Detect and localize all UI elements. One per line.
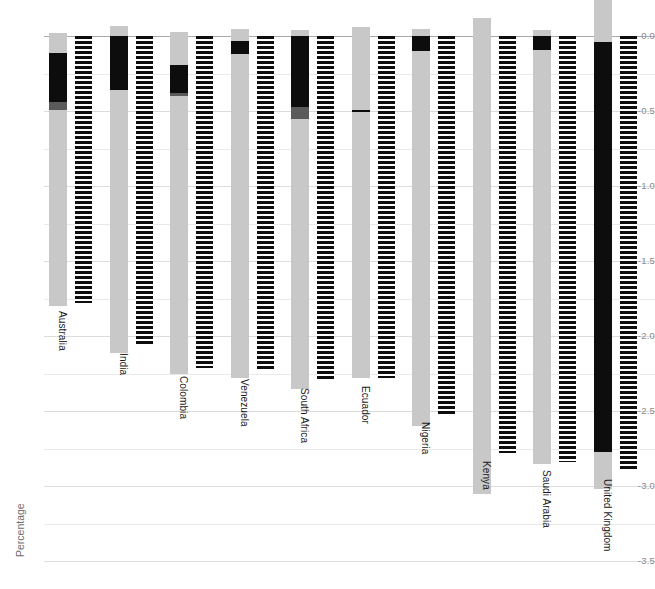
bar-group (291, 0, 334, 570)
category-label: Australia (57, 311, 68, 351)
bar-hatched[interactable] (257, 36, 274, 371)
bar-overlay-dark (49, 102, 67, 110)
bar-overlay-black (110, 36, 128, 90)
category-label: Nigeria (420, 422, 431, 454)
bar-solid[interactable] (594, 0, 612, 489)
bar-group (473, 0, 516, 570)
bar-overlay-black (231, 41, 249, 55)
category-label: United Kingdom (602, 479, 613, 552)
bar-group (110, 0, 153, 570)
bar-hatched[interactable] (499, 36, 516, 453)
bar-hatched[interactable] (196, 36, 213, 368)
bar-group (49, 0, 92, 570)
y-tick-label: -0.5 (615, 105, 655, 116)
y-tick-label: -3.0 (615, 480, 655, 491)
bar-solid[interactable] (110, 26, 128, 353)
bar-hatched[interactable] (75, 36, 92, 303)
chart-container: 0.0-0.5-1.0-1.5-2.0-2.5-3.0-3.5 Percenta… (0, 0, 655, 589)
bar-solid[interactable] (473, 18, 491, 494)
bar-overlay-dark (291, 107, 309, 119)
bar-solid[interactable] (291, 30, 309, 389)
category-label: Saudi Arabia (541, 470, 552, 528)
category-label: Venezuela (239, 379, 250, 427)
category-label: South Africa (299, 388, 310, 443)
bar-hatched[interactable] (136, 36, 153, 345)
y-axis-title: Percentage (14, 503, 26, 557)
y-tick-label: 0.0 (615, 30, 655, 41)
y-tick-label: -2.0 (615, 330, 655, 341)
bar-overlay-black (412, 36, 430, 51)
category-label: Colombia (178, 376, 189, 419)
bar-solid[interactable] (533, 30, 551, 464)
category-label: Ecuador (360, 386, 371, 424)
category-label: India (118, 353, 129, 375)
bar-solid[interactable] (49, 33, 67, 306)
bar-overlay-black (533, 36, 551, 50)
bar-hatched[interactable] (317, 36, 334, 380)
bar-group (533, 0, 576, 570)
plot-area (44, 0, 655, 570)
bar-group (412, 0, 455, 570)
bar-hatched[interactable] (559, 36, 576, 462)
bar-overlay-black (49, 53, 67, 103)
y-tick-label: -3.5 (615, 555, 655, 566)
bar-group (231, 0, 274, 570)
category-label: Kenya (481, 461, 492, 490)
bar-solid[interactable] (352, 27, 370, 378)
bar-overlay-black (594, 42, 612, 452)
bar-solid[interactable] (412, 29, 430, 427)
bar-group (352, 0, 395, 570)
bar-overlay-black (170, 65, 188, 94)
bar-solid[interactable] (170, 32, 188, 374)
bar-hatched[interactable] (378, 36, 395, 378)
bar-hatched[interactable] (438, 36, 455, 414)
bar-group (170, 0, 213, 570)
bar-overlay-black (352, 110, 370, 112)
figure-caption (44, 572, 604, 588)
bar-overlay-dark (170, 93, 188, 96)
y-tick-label: -2.5 (615, 405, 655, 416)
y-tick-label: -1.5 (615, 255, 655, 266)
y-tick-label: -1.0 (615, 180, 655, 191)
bar-overlay-black (291, 36, 309, 107)
bar-solid[interactable] (231, 29, 249, 379)
